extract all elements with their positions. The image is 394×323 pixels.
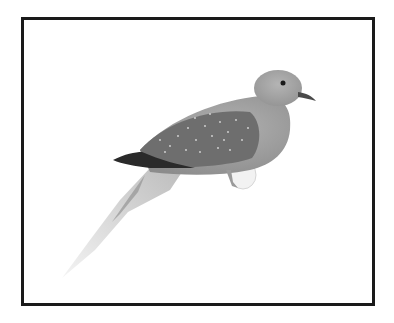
bird-photo <box>0 0 394 323</box>
beak <box>298 92 316 101</box>
tail <box>62 168 182 278</box>
eye <box>281 81 286 86</box>
bird-head <box>254 70 302 106</box>
